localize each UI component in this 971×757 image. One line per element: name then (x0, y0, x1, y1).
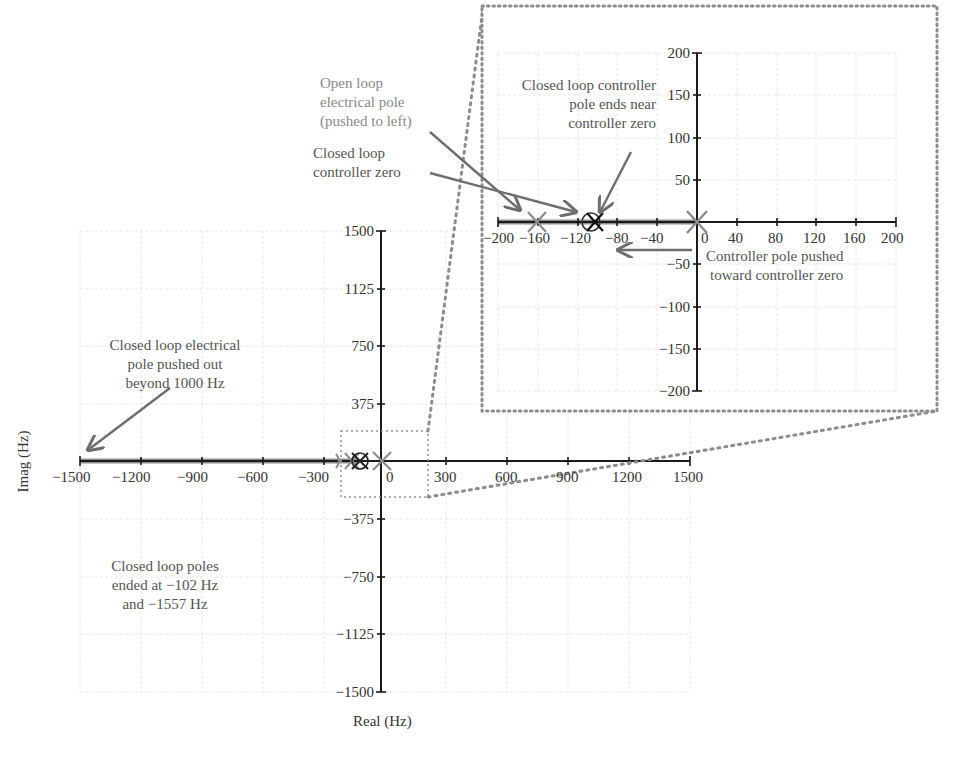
x-tick-label: 300 (434, 468, 457, 487)
annotation-line: Open loop (320, 74, 412, 93)
x-tick-label: 1500 (673, 468, 703, 487)
annotation-line: Closed loop (313, 144, 401, 163)
inset-x-tick-label: −200 (483, 229, 514, 248)
annotation-line: pole pushed out (80, 355, 270, 374)
inset-y-tick-label: 200 (640, 44, 690, 63)
x-tick-label: −600 (237, 468, 268, 487)
annotation-line: Closed loop controller (480, 76, 656, 95)
x-tick-label: 900 (556, 468, 579, 487)
annotation-line: controller zero (480, 114, 656, 133)
annotation-electrical-pole: Closed loop electrical pole pushed out b… (80, 336, 270, 393)
annotation-controller-pole-pushed: Controller pole pushed toward controller… (706, 247, 843, 285)
y-tick-label: −1500 (320, 683, 374, 702)
inset-y-tick-label: −50 (640, 255, 690, 274)
x-tick-label: −900 (177, 468, 208, 487)
annotation-line: pole ends near (480, 95, 656, 114)
x-tick-label: −300 (298, 468, 329, 487)
inset-x-tick-label: 160 (843, 229, 866, 248)
x-tick-label: −1500 (52, 468, 90, 487)
annotation-line: and −1557 Hz (90, 595, 240, 614)
inset-y-tick-label: −100 (640, 298, 690, 317)
annotation-line: Controller pole pushed (706, 247, 843, 266)
x-axis-title: Real (Hz) (353, 712, 412, 731)
y-tick-label: −375 (320, 510, 374, 529)
inset-x-tick-label: 200 (881, 229, 904, 248)
x-tick-label: 600 (495, 468, 518, 487)
x-tick-label: −1200 (112, 468, 150, 487)
annotation-closed-loop-controller-zero: Closed loop controller zero (313, 144, 401, 182)
inset-y-tick-label: −200 (640, 382, 690, 401)
inset-y-tick-label: 50 (640, 171, 690, 190)
inset-x-tick-label: 120 (803, 229, 826, 248)
y-tick-label: 375 (320, 395, 374, 414)
inset-x-tick-label: −80 (605, 229, 628, 248)
annotation-closed-loop-controller-pole: Closed loop controller pole ends near co… (480, 76, 656, 133)
inset-x-tick-label: −120 (560, 229, 591, 248)
inset-y-tick-label: −150 (640, 340, 690, 359)
y-axis-title: Imag (Hz) (14, 430, 33, 492)
annotation-line: controller zero (313, 163, 401, 182)
y-tick-label: 1125 (320, 280, 374, 299)
inset-x-tick-label: −160 (519, 229, 550, 248)
y-tick-label: 1500 (320, 222, 374, 241)
annotation-line: Closed loop electrical (80, 336, 270, 355)
annotation-line: ended at −102 Hz (90, 576, 240, 595)
annotation-line: electrical pole (320, 93, 412, 112)
annotation-line: toward controller zero (706, 266, 843, 285)
annotation-line: (pushed to left) (320, 112, 412, 131)
x-tick-label: 1200 (612, 468, 642, 487)
y-tick-label: 750 (320, 337, 374, 356)
arrow-electrical-pole (88, 388, 170, 450)
annotation-closed-loop-poles: Closed loop poles ended at −102 Hz and −… (90, 557, 240, 614)
annotation-open-loop-electrical-pole: Open loop electrical pole (pushed to lef… (320, 74, 412, 131)
inset-x-tick-label: 40 (728, 229, 743, 248)
y-tick-label: −750 (320, 568, 374, 587)
inset-x-tick-label: −40 (640, 229, 663, 248)
annotation-line: beyond 1000 Hz (80, 374, 270, 393)
x-tick-label: 0 (386, 468, 394, 487)
inset-x-tick-label: 80 (768, 229, 783, 248)
inset-x-tick-label: 0 (701, 229, 709, 248)
inset-frame (482, 6, 937, 411)
annotation-line: Closed loop poles (90, 557, 240, 576)
y-tick-label: −1125 (320, 625, 374, 644)
